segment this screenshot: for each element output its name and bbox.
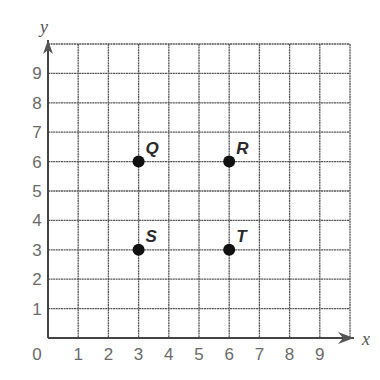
y-tick-label: 6 [32, 153, 41, 172]
data-points: QRST [133, 139, 250, 256]
point-label-s: S [146, 227, 158, 246]
x-tick-label: 9 [315, 345, 324, 364]
x-tick-label: 7 [255, 345, 264, 364]
x-tick-label: 5 [194, 345, 203, 364]
x-tick-label: 3 [134, 345, 143, 364]
y-tick-label: 1 [32, 300, 41, 319]
coordinate-grid-chart: 0123456789123456789 QRST x y [0, 0, 380, 380]
point-t [223, 244, 235, 256]
x-tick-label: 8 [285, 345, 294, 364]
y-tick-label: 9 [32, 64, 41, 83]
y-tick-label: 2 [32, 270, 41, 289]
x-tick-label: 1 [73, 345, 82, 364]
point-label-r: R [236, 139, 249, 158]
point-q [133, 156, 145, 168]
grid-lines [48, 44, 350, 338]
x-tick-label: 6 [224, 345, 233, 364]
y-tick-label: 8 [32, 94, 41, 113]
x-axis-label: x [361, 329, 370, 349]
point-s [133, 244, 145, 256]
point-label-q: Q [146, 139, 159, 158]
y-tick-label: 4 [32, 211, 41, 230]
y-tick-label: 3 [32, 241, 41, 260]
tick-labels: 0123456789123456789 [32, 64, 324, 364]
point-r [223, 156, 235, 168]
point-label-t: T [236, 227, 248, 246]
y-axis-label: y [38, 17, 48, 37]
x-tick-label: 2 [104, 345, 113, 364]
x-tick-label: 0 [32, 345, 41, 364]
y-tick-label: 7 [32, 123, 41, 142]
y-tick-label: 5 [32, 182, 41, 201]
x-tick-label: 4 [164, 345, 173, 364]
